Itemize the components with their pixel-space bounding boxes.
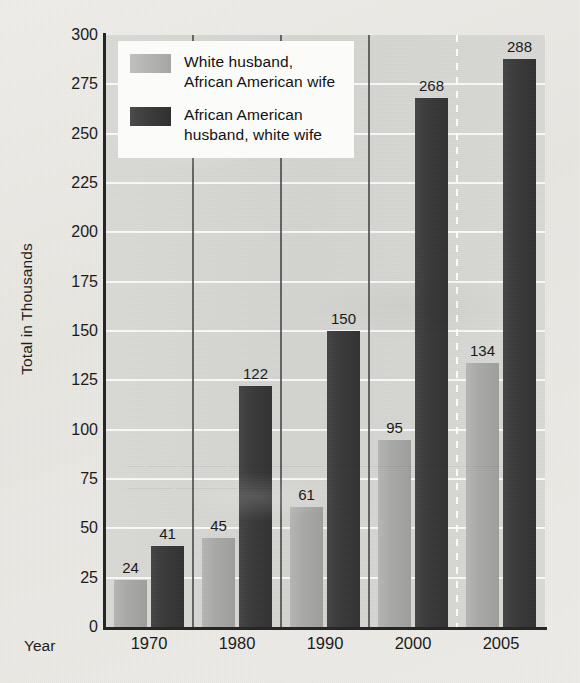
y-tick-250: 250 [44, 125, 98, 143]
legend-label-african-american-husband: African Americanhusband, white wife [184, 105, 322, 145]
y-tick-175: 175 [44, 273, 98, 291]
y-tick-100: 100 [44, 421, 98, 439]
y-tick-200: 200 [44, 223, 98, 241]
x-tick-1990: 1990 [307, 634, 344, 653]
category-separator [368, 35, 370, 627]
x-tick-2000: 2000 [395, 634, 432, 653]
bar-1980-series1 [202, 538, 235, 627]
bar-2005-series1 [466, 363, 499, 627]
bar-2000-series1 [378, 440, 411, 627]
chart-legend: White husband,African American wife Afri… [118, 41, 354, 158]
legend-entry-white-husband: White husband,African American wife [130, 52, 344, 92]
value-label-1980-series2: 122 [243, 365, 268, 382]
legend-label-line2: husband, white wife [184, 126, 322, 143]
value-label-2000-series2: 268 [419, 77, 444, 94]
gridline-200 [105, 231, 545, 233]
y-tick-50: 50 [44, 519, 98, 537]
y-tick-75: 75 [44, 470, 98, 488]
legend-entry-african-american-husband: African Americanhusband, white wife [130, 105, 344, 145]
bar-chart-figure: Total in Thousands Year 3002752502252001… [0, 0, 580, 683]
x-tick-1980: 1980 [219, 634, 256, 653]
legend-swatch-dark-icon [130, 107, 171, 126]
y-tick-300: 300 [44, 26, 98, 44]
bar-1990-series1 [290, 507, 323, 627]
bar-1980-series2 [239, 386, 272, 627]
value-label-2005-series2: 288 [507, 38, 532, 55]
x-tick-1970: 1970 [131, 634, 168, 653]
gridline-150 [105, 330, 545, 332]
gridline-225 [105, 182, 545, 184]
y-axis-line [103, 33, 106, 629]
legend-label-white-husband: White husband,African American wife [184, 52, 335, 92]
legend-label-line2: African American wife [184, 73, 335, 90]
value-label-1970-series2: 41 [159, 525, 176, 542]
y-axis-title: Total in Thousands [18, 219, 36, 399]
value-label-1970-series1: 24 [122, 559, 139, 576]
x-axis-line [103, 627, 547, 630]
value-label-1990-series2: 150 [331, 310, 356, 327]
bar-2000-series2 [415, 98, 448, 627]
bar-1970-series1 [114, 580, 147, 627]
bar-2005-series2 [503, 59, 536, 627]
gridline-175 [105, 281, 545, 283]
value-label-1980-series1: 45 [210, 517, 227, 534]
y-tick-0: 0 [44, 618, 98, 636]
y-axis-tick-labels: 3002752502252001751501251007550250 [36, 0, 98, 683]
value-label-2000-series1: 95 [386, 419, 403, 436]
legend-swatch-light-icon [130, 54, 171, 73]
bar-1990-series2 [327, 331, 360, 627]
y-tick-125: 125 [44, 371, 98, 389]
value-label-2005-series1: 134 [470, 342, 495, 359]
y-tick-25: 25 [44, 569, 98, 587]
category-separator-dashed [456, 35, 458, 627]
x-tick-2005: 2005 [483, 634, 520, 653]
legend-label-line1: White husband, [184, 53, 293, 70]
value-label-1990-series1: 61 [298, 486, 315, 503]
y-tick-275: 275 [44, 75, 98, 93]
bar-1970-series2 [151, 546, 184, 627]
y-tick-150: 150 [44, 322, 98, 340]
legend-label-line1: African American [184, 106, 303, 123]
y-tick-225: 225 [44, 174, 98, 192]
